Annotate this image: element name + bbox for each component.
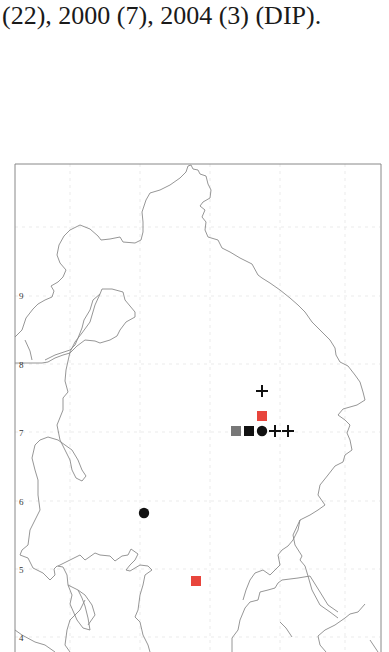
black-square-marker bbox=[244, 426, 254, 436]
plus-marker bbox=[269, 425, 281, 437]
black-circle-marker bbox=[257, 426, 267, 436]
black-circle-marker bbox=[139, 508, 149, 518]
markers bbox=[139, 385, 294, 586]
gray-square-marker bbox=[231, 426, 241, 436]
y-label-5: 5 bbox=[19, 565, 24, 575]
y-label-6: 6 bbox=[19, 497, 24, 507]
y-axis-labels: 9 8 7 6 5 4 bbox=[19, 291, 24, 643]
red-square-marker bbox=[191, 576, 201, 586]
plus-marker bbox=[256, 385, 268, 397]
map: 9 8 7 6 5 4 bbox=[0, 0, 389, 652]
y-label-7: 7 bbox=[19, 428, 24, 438]
y-label-8: 8 bbox=[19, 360, 24, 370]
y-label-9: 9 bbox=[19, 291, 24, 301]
red-square-marker bbox=[257, 411, 267, 421]
y-label-4: 4 bbox=[19, 633, 24, 643]
plus-marker bbox=[282, 425, 294, 437]
